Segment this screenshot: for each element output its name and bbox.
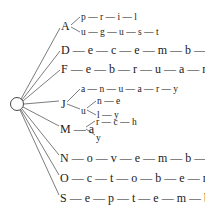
month-trie-diagram: A p — r — i — l u — g — u — s — t D — e …: [0, 0, 205, 213]
word-january: a — n — u — a — r — y: [81, 84, 178, 94]
branch-a: A p — r — i — l u — g — u — s — t: [61, 12, 159, 37]
branch-m: M — a r — c — h y: [60, 117, 137, 143]
word-september: S — e — p — t — e — m — b — e — r: [60, 191, 205, 205]
word-february: F — e — b — r — u — a — r — y: [61, 62, 205, 76]
word-november: N — o — v — e — m — b — e — r: [60, 151, 205, 165]
node-ma: M — a: [60, 122, 95, 136]
word-june: n — e: [97, 96, 120, 106]
root-edges: [20, 28, 60, 195]
node-ju: u: [81, 106, 86, 116]
node-a: A: [61, 19, 70, 33]
branch-j: J a — n — u — a — r — y u n — e l — y: [61, 84, 178, 120]
word-april: p — r — i — l: [81, 12, 137, 22]
word-december: D — e — c — e — m — b — e — r: [61, 43, 205, 57]
root-node: [11, 98, 24, 111]
word-august: u — g — u — s — t: [81, 27, 159, 37]
word-may: y: [96, 133, 101, 143]
node-j: J: [61, 97, 66, 111]
word-october: O — c — t — o — b — e — r: [60, 171, 205, 185]
word-march: r — c — h: [96, 117, 137, 127]
